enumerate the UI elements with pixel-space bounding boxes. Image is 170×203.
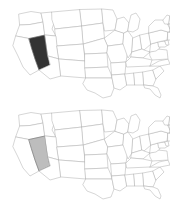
state-MS[interactable] [125, 174, 135, 186]
state-LA[interactable] [112, 175, 127, 191]
state-TN[interactable] [126, 158, 152, 168]
state-WY[interactable] [55, 26, 84, 46]
state-TN[interactable] [126, 57, 152, 67]
state-FL[interactable] [144, 186, 161, 199]
us-state-map-figure [0, 0, 170, 203]
state-MT[interactable] [52, 10, 82, 30]
state-IA[interactable] [105, 131, 125, 147]
state-NJ[interactable] [168, 133, 170, 141]
state-WI[interactable] [115, 17, 129, 33]
state-KS[interactable] [85, 154, 108, 169]
state-NJ[interactable] [168, 32, 170, 40]
state-WI[interactable] [115, 118, 129, 134]
state-OK[interactable] [85, 168, 112, 179]
state-WY[interactable] [55, 127, 84, 147]
map-panel-bottom [0, 101, 170, 202]
state-MN[interactable] [102, 110, 117, 132]
map-panel-top [0, 0, 170, 101]
state-LA[interactable] [112, 74, 127, 90]
state-MS[interactable] [125, 73, 135, 85]
state-AR[interactable] [111, 62, 126, 75]
state-CO[interactable] [57, 44, 85, 61]
state-TX[interactable] [83, 179, 114, 199]
state-KS[interactable] [85, 53, 108, 68]
state-MN[interactable] [102, 9, 117, 31]
state-NM[interactable] [59, 59, 86, 78]
state-NM[interactable] [59, 160, 86, 179]
states-layer-bottom [13, 107, 170, 199]
state-AL[interactable] [134, 173, 144, 186]
state-FL[interactable] [144, 85, 161, 98]
state-MI[interactable] [128, 114, 140, 133]
state-MT[interactable] [52, 111, 82, 131]
state-TX[interactable] [83, 78, 114, 98]
state-MI[interactable] [128, 13, 140, 32]
states-layer-top [13, 6, 170, 98]
state-CO[interactable] [57, 145, 85, 162]
us-map-svg-top [0, 0, 170, 101]
state-OK[interactable] [85, 67, 112, 78]
state-AR[interactable] [111, 163, 126, 176]
us-map-svg-bottom [0, 101, 170, 202]
state-IA[interactable] [105, 30, 125, 46]
state-AL[interactable] [134, 72, 144, 85]
